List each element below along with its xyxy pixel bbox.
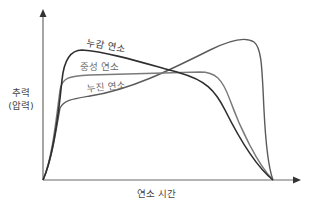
y-axis-label-line1: 추력 bbox=[4, 86, 38, 99]
y-axis-label-line2: (압력) bbox=[4, 99, 38, 112]
curve-label-neutral: 중성 연소 bbox=[80, 59, 119, 73]
curve-neutral bbox=[43, 72, 273, 180]
x-axis-arrow-icon bbox=[293, 177, 301, 184]
y-axis-label: 추력 (압력) bbox=[4, 86, 38, 112]
x-axis-label: 연소 시간 bbox=[137, 186, 176, 200]
thrust-curve-diagram bbox=[0, 0, 315, 208]
y-axis-arrow-icon bbox=[40, 9, 47, 17]
curve-regressive bbox=[43, 50, 273, 180]
curve-progressive bbox=[43, 39, 273, 180]
